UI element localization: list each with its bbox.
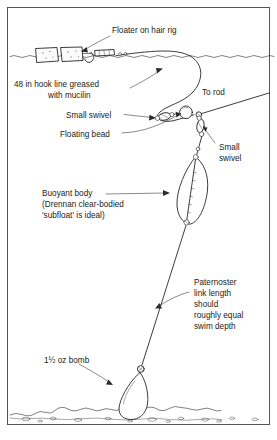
label-small-swivel-right-line1: Small [219,143,240,152]
label-floating-bead: Floating bead [60,130,110,139]
floater-bait-2 [61,47,83,62]
floater-bait-group [36,47,127,63]
label-hook-line-line2: with mucilin [47,91,91,100]
label-buoyant-body-line1: Buoyant body [42,189,93,198]
label-to-rod: To rod [202,88,225,97]
small-swivel-upper [155,112,174,122]
buoyant-body [177,155,208,225]
floating-bead [180,106,193,119]
label-paternoster-line4: roughly equal [194,311,244,320]
label-paternoster-line1: Paternoster [194,278,237,287]
floater-bait-1 [36,48,59,63]
label-small-swivel-left: Small swivel [66,111,111,120]
label-hook-line-line1: 48 in hook line greased [14,80,100,89]
label-bomb: 1½ oz bomb [44,356,90,365]
label-small-swivel-right-line2: swivel [219,154,242,163]
bomb-weight [119,373,148,420]
paternoster-link [137,226,186,373]
label-paternoster-line3: should [194,300,219,309]
label-buoyant-body-line3: 'subfloat' is ideal) [42,211,105,220]
line-sleeve [95,50,115,57]
label-floater-on-hair-rig: Floater on hair rig [112,26,177,35]
label-buoyant-body-line2: (Drennan clear-bodied [42,200,124,209]
rig-diagram-figure: Floater on hair rig 48 in hook line grea… [0,0,277,440]
label-paternoster-line5: swim depth [194,322,236,331]
small-swivel-lower [196,116,205,137]
label-paternoster-line2: link length [194,289,232,298]
